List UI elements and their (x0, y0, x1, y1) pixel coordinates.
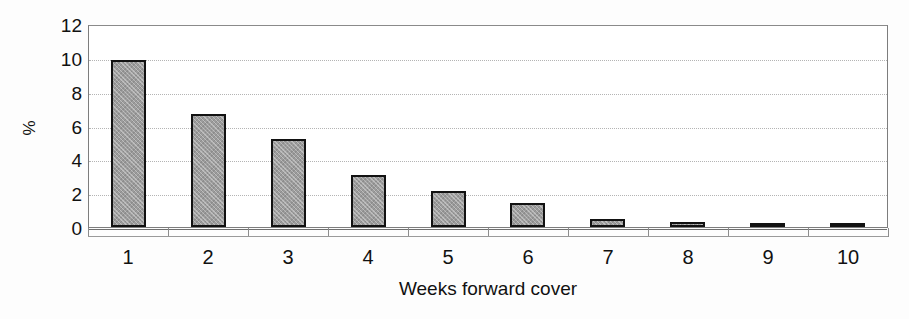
y-axis-tick-label: 4 (38, 151, 82, 170)
x-axis-tick-label: 3 (248, 243, 328, 273)
x-axis-tick-labels: 12345678910 (88, 243, 888, 273)
bar (351, 175, 386, 227)
bar-slot (328, 26, 408, 227)
x-axis-line (88, 236, 888, 237)
bar-series (89, 26, 887, 227)
bar-slot (249, 26, 329, 227)
bar-slot (648, 26, 728, 227)
y-axis-tick-label: 8 (38, 83, 82, 102)
x-axis-tick-mark (888, 228, 889, 237)
x-axis-tick-label: 9 (728, 243, 808, 273)
y-axis-tick-label: 6 (38, 117, 82, 136)
y-axis-tick-label: 10 (38, 49, 82, 68)
bar (431, 191, 466, 227)
y-axis-tick-label: 2 (38, 185, 82, 204)
x-axis-tick-label: 6 (488, 243, 568, 273)
y-axis-tick-label: 0 (38, 219, 82, 238)
bar (670, 222, 705, 227)
plot-area (88, 25, 888, 228)
bar (111, 60, 146, 227)
x-axis-tick-label: 8 (648, 243, 728, 273)
bar (750, 223, 785, 227)
x-axis-tick-label: 5 (408, 243, 488, 273)
bar (590, 219, 625, 227)
y-axis-tick-label: 12 (38, 16, 82, 35)
bar-slot (807, 26, 887, 227)
bar (191, 114, 226, 227)
y-axis-tick-labels: 121086420 (30, 0, 82, 319)
bar-slot (89, 26, 169, 227)
bar-slot (727, 26, 807, 227)
bar (830, 223, 865, 227)
bar-slot (408, 26, 488, 227)
bar-chart-figure: % 121086420 12345678910 Weeks forward co… (0, 0, 909, 319)
bar-slot (568, 26, 648, 227)
bar (271, 139, 306, 227)
bar-slot (488, 26, 568, 227)
x-axis-tick-label: 2 (168, 243, 248, 273)
x-axis-tick-label: 1 (88, 243, 168, 273)
x-axis-tick-label: 7 (568, 243, 648, 273)
x-axis-tick-label: 10 (808, 243, 888, 273)
x-axis-title: Weeks forward cover (88, 278, 888, 300)
bar-slot (169, 26, 249, 227)
bar (510, 203, 545, 227)
x-axis-tick-label: 4 (328, 243, 408, 273)
